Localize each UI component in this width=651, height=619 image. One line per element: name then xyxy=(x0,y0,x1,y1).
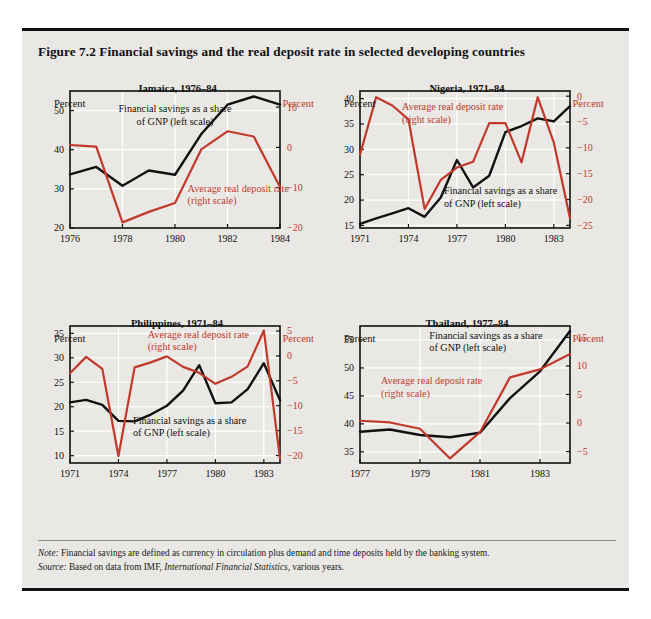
x-tick-label: 1983 xyxy=(254,468,274,479)
source-lead: Source: xyxy=(38,562,67,572)
note-text: Financial savings are defined as currenc… xyxy=(59,548,490,558)
y-tick-label-left: 40 xyxy=(54,144,64,155)
y-tick-label-left: 20 xyxy=(54,401,64,412)
plot-svg-philippines: 101520253035−20−15−10−505197119741977198… xyxy=(32,318,322,496)
axis-caption-right-thailand: Percent xyxy=(573,333,605,344)
x-tick-label: 1977 xyxy=(157,468,177,479)
y-tick-label-left: 10 xyxy=(54,450,64,461)
x-tick-label: 1971 xyxy=(350,233,370,244)
note-line: Note: Financial savings are defined as c… xyxy=(38,547,616,560)
y-tick-label-left: 45 xyxy=(344,390,354,401)
plot-svg-thailand: 3540455055−50510151977197919811983Financ… xyxy=(322,318,612,496)
y-tick-label-left: 35 xyxy=(344,446,354,457)
y-tick-label-right: −15 xyxy=(287,425,303,436)
chart-panel-jamaica: Jamaica, 1976–84 Percent Percent 2030405… xyxy=(32,83,322,283)
x-tick-label: 1984 xyxy=(270,233,290,244)
x-tick-label: 1978 xyxy=(113,233,133,244)
axis-caption-right-philippines: Percent xyxy=(283,333,315,344)
x-tick-label: 1980 xyxy=(165,233,185,244)
y-tick-label-right: −20 xyxy=(577,194,593,205)
y-tick-label-right: −5 xyxy=(577,116,588,127)
chart-title-nigeria: Nigeria, 1971–84 xyxy=(322,83,612,94)
chart-title-jamaica: Jamaica, 1976–84 xyxy=(32,83,322,94)
x-tick-label: 1980 xyxy=(205,468,225,479)
notes-divider xyxy=(38,540,616,541)
y-tick-label-right: −20 xyxy=(287,222,303,233)
y-tick-label-right: 5 xyxy=(577,389,582,400)
chart-annotation: of GNP (left scale) xyxy=(429,342,506,354)
x-tick-label: 1982 xyxy=(218,233,238,244)
chart-panel-philippines: Philippines, 1971–84 Percent Percent 101… xyxy=(32,318,322,518)
source-line: Source: Based on data from IMF, Internat… xyxy=(38,561,616,574)
x-tick-label: 1976 xyxy=(60,233,80,244)
y-tick-label-right: −10 xyxy=(287,400,303,411)
y-tick-label-left: 30 xyxy=(344,144,354,155)
chart-panel-nigeria: Nigeria, 1971–84 Percent Percent 1520253… xyxy=(322,83,612,283)
y-tick-label-right: 0 xyxy=(287,142,292,153)
y-tick-label-right: −5 xyxy=(287,375,298,386)
y-tick-label-right: 10 xyxy=(577,360,587,371)
chart-annotation: (right scale) xyxy=(381,388,430,400)
y-tick-label-left: 15 xyxy=(344,220,354,231)
y-tick-label-right: −15 xyxy=(577,168,593,179)
chart-panel-thailand: Thailand, 1977–84 Percent Percent 354045… xyxy=(322,318,612,518)
note-lead: Note: xyxy=(38,548,59,558)
y-tick-label-left: 40 xyxy=(344,418,354,429)
y-tick-label-right: 0 xyxy=(287,350,292,361)
y-tick-label-left: 25 xyxy=(54,377,64,388)
y-tick-label-left: 25 xyxy=(344,169,354,180)
chart-annotation: of GNP (left scale) xyxy=(137,116,214,128)
source-text-a: Based on data from IMF, xyxy=(67,562,165,572)
chart-annotation: Financial savings as a share xyxy=(429,330,543,341)
axis-caption-left-thailand: Percent xyxy=(344,333,376,344)
plot-svg-jamaica: 20304050−20−1001019761978198019821984Fin… xyxy=(32,83,322,261)
axis-caption-right-jamaica: Percent xyxy=(283,98,315,109)
chart-annotation: Average real deposit rate xyxy=(188,183,290,194)
y-tick-label-right: 0 xyxy=(577,417,582,428)
figure-title: Figure 7.2 Financial savings and the rea… xyxy=(38,44,525,60)
chart-annotation: (right scale) xyxy=(148,341,197,353)
figure-notes: Note: Financial savings are defined as c… xyxy=(38,547,616,574)
x-tick-label: 1980 xyxy=(495,233,515,244)
y-tick-label-left: 20 xyxy=(344,194,354,205)
y-tick-label-right: −10 xyxy=(287,182,303,193)
chart-title-thailand: Thailand, 1977–84 xyxy=(322,318,612,329)
y-tick-label-left: 30 xyxy=(54,183,64,194)
figure-card: Figure 7.2 Financial savings and the rea… xyxy=(22,28,629,591)
y-tick-label-left: 35 xyxy=(344,118,354,129)
source-publication: International Financial Statistics xyxy=(164,562,287,572)
chart-annotation: Financial savings as a share xyxy=(133,415,247,426)
x-tick-label: 1977 xyxy=(350,468,370,479)
x-tick-label: 1983 xyxy=(544,233,564,244)
axis-caption-right-nigeria: Percent xyxy=(573,98,605,109)
axis-caption-left-philippines: Percent xyxy=(54,333,86,344)
chart-annotation: Average real deposit rate xyxy=(148,329,250,340)
axis-caption-left-nigeria: Percent xyxy=(344,98,376,109)
x-tick-label: 1979 xyxy=(410,468,430,479)
plot-svg-nigeria: 152025303540−25−20−15−10−501971197419771… xyxy=(322,83,612,261)
y-tick-label-left: 50 xyxy=(344,362,354,373)
y-tick-label-right: −20 xyxy=(287,450,303,461)
x-tick-label: 1981 xyxy=(470,468,490,479)
y-tick-label-right: −25 xyxy=(577,220,593,231)
chart-title-philippines: Philippines, 1971–84 xyxy=(32,318,322,329)
x-tick-label: 1974 xyxy=(398,233,418,244)
x-tick-label: 1974 xyxy=(108,468,128,479)
y-tick-label-left: 30 xyxy=(54,352,64,363)
chart-annotation: (right scale) xyxy=(402,114,451,126)
chart-annotation: of GNP (left scale) xyxy=(444,198,521,210)
axis-caption-left-jamaica: Percent xyxy=(54,98,86,109)
y-tick-label-left: 20 xyxy=(54,222,64,233)
x-tick-label: 1971 xyxy=(60,468,80,479)
y-tick-label-left: 15 xyxy=(54,426,64,437)
chart-annotation: Average real deposit rate xyxy=(402,101,504,112)
chart-annotation: Financial savings as a share xyxy=(118,103,232,114)
x-tick-label: 1983 xyxy=(530,468,550,479)
y-tick-label-right: −5 xyxy=(577,446,588,457)
source-text-c: , various years. xyxy=(288,562,344,572)
chart-annotation: (right scale) xyxy=(188,195,237,207)
chart-annotation: Average real deposit rate xyxy=(381,375,483,386)
chart-annotation: Financial savings as a share xyxy=(444,185,558,196)
chart-annotation: of GNP (left scale) xyxy=(133,427,210,439)
x-tick-label: 1977 xyxy=(447,233,467,244)
